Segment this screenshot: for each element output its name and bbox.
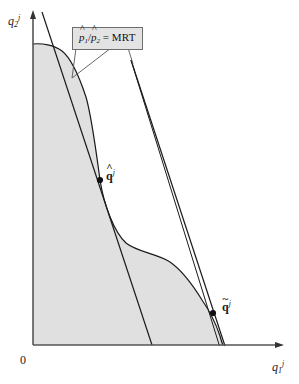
point-label-q-hat: ^qj — [106, 169, 115, 182]
p2-hat-accent: ^ — [92, 24, 96, 34]
y-axis-arrowhead — [30, 10, 36, 19]
x-axis-arrowhead — [275, 342, 284, 348]
p1-hat-accent: ^ — [80, 24, 84, 34]
y-axis-label-superscript: j — [18, 13, 20, 22]
q-hat-superscript: j — [113, 168, 115, 177]
diagram-canvas — [0, 0, 299, 384]
q-tilde-superscript: j — [229, 299, 231, 308]
y-axis-label: q2j — [8, 14, 20, 29]
origin-label: 0 — [20, 354, 26, 366]
callout-mrt-term: MRT — [112, 31, 136, 43]
callout-leader-line-down — [128, 48, 133, 64]
q-hat-accent: ^ — [106, 162, 112, 173]
mrt-callout-box: ^p1/^p2 = MRT — [72, 27, 143, 50]
callout-equals: = — [100, 31, 112, 43]
x-axis-label: q1j — [272, 360, 284, 375]
q-tilde-accent: ~ — [222, 293, 228, 304]
production-possibility-region — [33, 44, 223, 345]
point-label-q-tilde: ~qj — [222, 300, 231, 313]
point-marker-q-hat — [97, 177, 103, 183]
x-axis-label-superscript: j — [282, 359, 284, 368]
point-marker-q-tilde — [210, 310, 216, 316]
figure-container: q2j q1j 0 ^qj ~qj ^p1/^p2 = MRT — [0, 0, 299, 384]
callout-leader-line-right — [72, 48, 111, 78]
